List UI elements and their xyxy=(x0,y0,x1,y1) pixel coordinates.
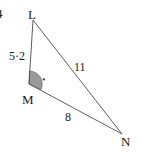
side-label-mn: 8 xyxy=(65,110,71,124)
question-number: 4 xyxy=(0,6,3,21)
angle-star-icon: ⋆ xyxy=(41,74,47,84)
vertex-label-l: L xyxy=(28,7,36,22)
triangle-diagram: 4 ⋆ L M N 5·2 11 8 xyxy=(0,0,141,152)
side-mn xyxy=(29,84,122,134)
side-label-lm: 5·2 xyxy=(9,49,25,63)
side-label-ln: 11 xyxy=(74,60,86,74)
vertex-label-m: M xyxy=(22,92,34,107)
vertex-label-n: N xyxy=(121,134,131,149)
